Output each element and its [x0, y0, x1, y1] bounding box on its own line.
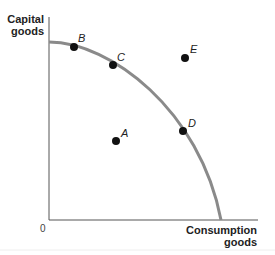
point-e-label: E	[190, 43, 198, 55]
x-axis-label-line2: goods	[224, 236, 257, 248]
point-a-label: A	[120, 127, 128, 139]
point-e	[181, 54, 189, 62]
y-axis-label-line2: goods	[11, 25, 44, 37]
x-axis-label-line1: Consumption	[186, 224, 257, 236]
point-d	[179, 127, 187, 135]
ppf-curve	[49, 42, 221, 220]
origin-label: 0	[40, 223, 46, 234]
point-b-label: B	[78, 32, 85, 44]
point-d-label: D	[188, 117, 196, 129]
point-a	[112, 137, 120, 145]
y-axis-label-line1: Capital	[7, 13, 44, 25]
point-c	[109, 61, 117, 69]
point-b	[70, 43, 78, 51]
ppf-chart: B C E D A Capital goods Consumption good…	[0, 0, 275, 255]
point-c-label: C	[117, 51, 125, 63]
